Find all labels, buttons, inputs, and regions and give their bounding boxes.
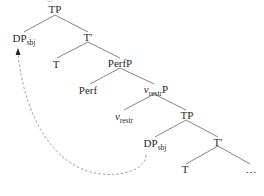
node-tp-low: TP [181, 109, 194, 121]
node-tbar-top: T′ [83, 31, 92, 43]
node-perf: Perf [79, 84, 97, 96]
node-vrestr: vrestr [115, 110, 133, 122]
edge-perfp-perf [90, 68, 120, 84]
edge-tp-dpsbj-low [155, 120, 186, 137]
edge-perfp-vrestrp [120, 68, 154, 84]
edge-tbar-t [57, 42, 88, 58]
tree-edges [0, 0, 264, 196]
edge-tp-tbar-low [186, 120, 218, 137]
edge-tbar-perfp [88, 42, 120, 58]
node-dp-sbj-top: DPsbj [13, 32, 36, 44]
edge-tp-dpsbj [24, 15, 55, 32]
node-ellipsis: … [246, 163, 257, 175]
arrowhead-icon [16, 48, 21, 55]
edge-tp-tbar [55, 15, 88, 32]
node-t-low: T [182, 163, 189, 175]
node-tbar-low: T′ [213, 136, 222, 148]
node-tp-root: TP [49, 3, 62, 15]
node-perfp: PerfP [108, 57, 132, 69]
edge-tbar-ellipsis [218, 146, 250, 164]
node-dp-sbj-low: DPsbj [144, 137, 167, 149]
node-vrestr-p: vrestrP [144, 83, 168, 95]
edge-tbar-t-low [186, 146, 218, 164]
node-t-top: T [53, 58, 60, 70]
